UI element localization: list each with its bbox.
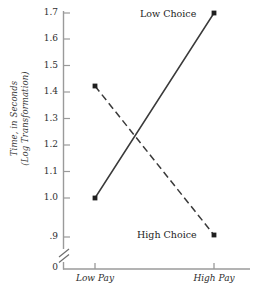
data-point-high-choice-low-pay xyxy=(93,84,98,89)
y-tick-label-1-1: 1.1 xyxy=(28,166,58,176)
series-label-high-choice: High Choice xyxy=(137,229,197,240)
y-tick-label-1-3: 1.3 xyxy=(28,113,58,123)
y-tick-label-1-0: 1.0 xyxy=(28,192,58,202)
y-tick-label-0-9: .9 xyxy=(28,231,58,241)
interaction-line-chart: Time, in Seconds (Log Transformation) xyxy=(0,0,255,295)
y-tick-label-1-2: 1.2 xyxy=(28,139,58,149)
data-point-high-choice-high-pay xyxy=(212,233,217,238)
y-tick-label-1-5: 1.5 xyxy=(28,60,58,70)
axis-break-icon xyxy=(59,249,69,263)
series-line-low-choice xyxy=(95,13,214,198)
x-tick-label-high-pay: High Pay xyxy=(174,273,254,283)
y-tick-label-1-4: 1.4 xyxy=(28,86,58,96)
x-tick-marks xyxy=(95,263,214,269)
y-tick-label-1-6: 1.6 xyxy=(28,33,58,43)
x-tick-label-low-pay: Low Pay xyxy=(55,273,135,283)
y-axis-origin-label: 0 xyxy=(28,262,58,272)
series-label-low-choice: Low Choice xyxy=(140,8,196,19)
y-tick-marks xyxy=(64,13,71,237)
data-point-low-choice-low-pay xyxy=(93,196,98,201)
y-tick-label-1-7: 1.7 xyxy=(28,7,58,17)
data-point-low-choice-high-pay xyxy=(212,11,217,16)
series-line-high-choice xyxy=(95,86,214,235)
